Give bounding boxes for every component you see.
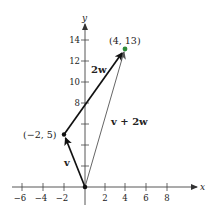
y-tick-labels: 8 10 12 14 [69,35,80,108]
point-neg2-5 [62,132,66,136]
svg-text:8: 8 [164,193,169,203]
x-tick-labels: −6 −4 −2 2 4 6 8 [14,193,170,203]
svg-text:4: 4 [122,193,127,203]
point-label-neg2-5: (−2, 5) [23,129,57,140]
svg-text:6: 6 [143,193,148,203]
origin-point [83,185,88,190]
svg-text:10: 10 [69,77,80,87]
svg-text:−4: −4 [35,193,48,203]
point-label-4-13: (4, 13) [109,35,141,46]
vector-label-2w: 2w [91,64,107,75]
x-axis-label: x [200,182,205,192]
svg-text:−6: −6 [14,193,27,203]
svg-text:2: 2 [102,193,107,203]
vector-addition-diagram: x y −6 −4 −2 2 4 6 8 [0,0,214,219]
svg-text:14: 14 [69,35,80,45]
svg-text:−2: −2 [56,193,69,203]
y-axis-label: y [81,13,88,23]
vector-label-v-plus-2w: v + 2w [110,116,148,127]
vector-label-v: v [63,157,71,168]
svg-text:12: 12 [69,56,80,66]
svg-text:8: 8 [75,98,80,108]
point-4-13 [123,47,128,52]
